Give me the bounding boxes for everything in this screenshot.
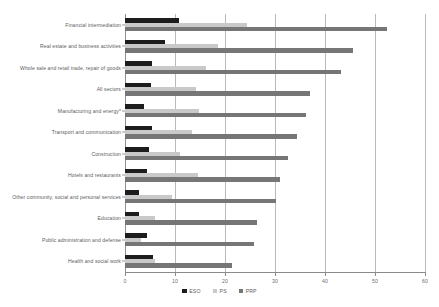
bar-prp	[125, 220, 257, 224]
legend-label: ESO	[189, 288, 200, 294]
legend-swatch-prp	[239, 289, 244, 294]
legend-label: PS	[220, 288, 227, 294]
bar-prp	[125, 70, 341, 74]
x-tick-label-0: 0	[124, 278, 127, 284]
x-tick-mark-20	[225, 272, 226, 276]
bar-prp	[125, 91, 310, 95]
category-label: Transport and communication	[52, 129, 121, 135]
category-group: Whole sale and retail trade, repair of g…	[125, 57, 425, 79]
legend-label: PRP	[246, 288, 257, 294]
category-group: All sectors	[125, 79, 425, 101]
legend-item[interactable]: ESO	[182, 288, 200, 294]
category-group: Health and social work	[125, 251, 425, 273]
x-tick-mark-30	[275, 272, 276, 276]
category-group: Transport and communication	[125, 122, 425, 144]
x-tick-mark-60	[425, 272, 426, 276]
category-group: Education	[125, 208, 425, 230]
legend-item[interactable]: PRP	[239, 288, 257, 294]
x-tick-label-60: 60	[422, 278, 428, 284]
category-label: Financial intermediation	[65, 22, 121, 28]
category-label: Public administration and defense	[42, 237, 121, 243]
category-label: Education	[98, 215, 121, 221]
category-group: Other community, social and personal ser…	[125, 186, 425, 208]
x-tick-mark-40	[325, 272, 326, 276]
x-tick-label-40: 40	[322, 278, 328, 284]
bar-prp	[125, 27, 387, 31]
category-group: Manufacturing and energy*	[125, 100, 425, 122]
x-tick-label-20: 20	[222, 278, 228, 284]
x-tick-label-30: 30	[272, 278, 278, 284]
legend-swatch-eso	[182, 289, 187, 294]
category-label: Whole sale and retail trade, repair of g…	[20, 65, 121, 71]
category-group: Public administration and defense	[125, 229, 425, 251]
x-tick-mark-10	[175, 272, 176, 276]
category-label: Real estate and business activities	[40, 43, 121, 49]
bar-prp	[125, 113, 306, 117]
bar-chart: Financial intermediationReal estate and …	[0, 0, 439, 307]
x-tick-label-50: 50	[372, 278, 378, 284]
category-label: Hotels and restaurants	[68, 172, 121, 178]
bar-prp	[125, 199, 276, 203]
legend-item[interactable]: PS	[213, 288, 227, 294]
category-group: Real estate and business activities	[125, 36, 425, 58]
category-label: Health and social work	[68, 258, 121, 264]
category-group: Hotels and restaurants	[125, 165, 425, 187]
gridline-60	[425, 14, 426, 272]
plot-area: Financial intermediationReal estate and …	[125, 14, 425, 272]
category-group: Construction	[125, 143, 425, 165]
x-tick-label-10: 10	[172, 278, 178, 284]
bar-prp	[125, 134, 297, 138]
category-label: Manufacturing and energy*	[58, 108, 121, 114]
bar-prp	[125, 263, 232, 267]
bar-prp	[125, 48, 353, 52]
bar-prp	[125, 177, 280, 181]
category-group: Financial intermediation	[125, 14, 425, 36]
category-label: All sectors	[97, 86, 121, 92]
legend-swatch-ps	[213, 289, 218, 294]
x-tick-mark-0	[125, 272, 126, 276]
category-label: Construction	[91, 151, 121, 157]
bar-prp	[125, 156, 288, 160]
x-tick-mark-50	[375, 272, 376, 276]
bar-prp	[125, 242, 254, 246]
chart-legend: ESOPSPRP	[0, 288, 439, 294]
category-label: Other community, social and personal ser…	[12, 194, 121, 200]
